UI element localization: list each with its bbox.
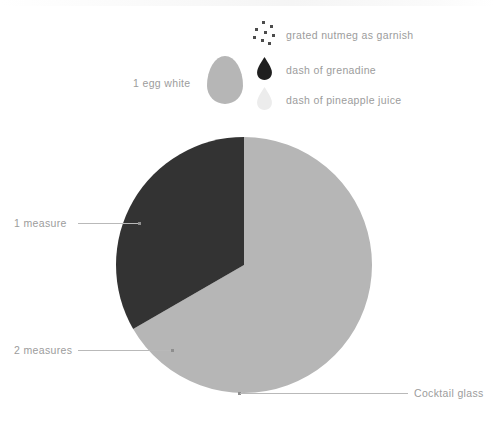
leader-line-two-measures [78, 350, 173, 351]
leader-dot-one-measure [138, 222, 141, 225]
callout-label-cocktail-glass: Cocktail glass [414, 388, 484, 399]
scan-artifact-strip [0, 0, 494, 6]
legend-label-nutmeg: grated nutmeg as garnish [286, 29, 413, 41]
legend-label-grenadine: dash of grenadine [286, 64, 376, 76]
nutmeg-dots-icon [252, 21, 278, 45]
pineapple-droplet-icon [256, 87, 273, 110]
legend-label-pineapple: dash of pineapple juice [286, 94, 401, 106]
leader-dot-two-measures [171, 349, 174, 352]
callout-label-two-measures: 2 measures [14, 345, 72, 356]
leader-line-one-measure [78, 223, 140, 224]
leader-line-cocktail-glass [240, 393, 408, 394]
infographic-canvas: 1 egg white grated nutmeg as garnish [0, 0, 494, 421]
callout-label-one-measure: 1 measure [14, 218, 67, 229]
pie-chart [116, 137, 372, 393]
grenadine-droplet-icon [256, 57, 273, 80]
egg-white-label: 1 egg white [133, 78, 191, 89]
egg-shape-icon [207, 56, 243, 104]
